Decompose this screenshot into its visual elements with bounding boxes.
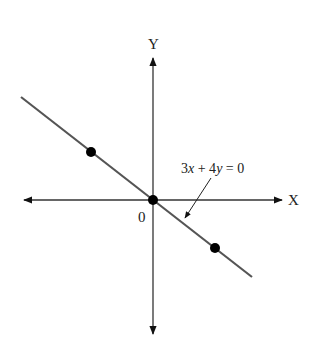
equation-label: 3x + 4y = 0 [181, 162, 244, 176]
origin-label: 0 [138, 210, 146, 225]
lower-right-point [210, 243, 220, 253]
y-axis-label: Y [148, 37, 159, 52]
x-axis-label: X [288, 193, 299, 208]
coordinate-plane [0, 0, 315, 353]
upper-left-point [86, 147, 96, 157]
origin-point [148, 195, 158, 205]
annotation-pointer-arrow [185, 178, 211, 218]
